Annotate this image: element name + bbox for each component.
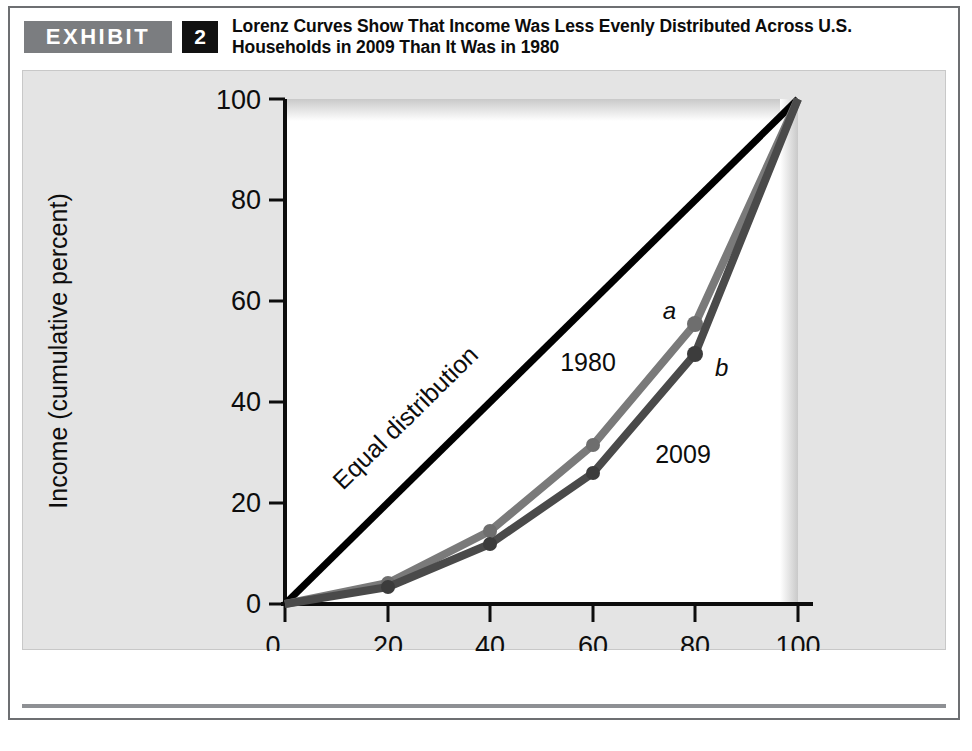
exhibit-number-badge: 2 bbox=[182, 21, 218, 53]
series-2009-marker-80-point-b bbox=[687, 346, 703, 362]
series-2009-marker-60 bbox=[586, 466, 600, 480]
annotation-point-b: b bbox=[715, 354, 728, 381]
annotation-series-2009: 2009 bbox=[655, 440, 711, 468]
y-axis-tick-labels: 0 20 40 60 80 100 bbox=[216, 85, 261, 619]
y-tick-label-80: 80 bbox=[231, 185, 261, 215]
lorenz-curve-chart: 0 20 40 60 80 100 0 20 40 60 8 bbox=[23, 71, 947, 651]
exhibit-badge: EXHIBIT bbox=[24, 21, 172, 53]
exhibit-title-line-2: in 2009 Than It Was in 1980 bbox=[336, 37, 559, 57]
y-tick-label-0: 0 bbox=[246, 589, 261, 619]
exhibit-frame: EXHIBIT 2 Lorenz Curves Show That Income… bbox=[8, 6, 960, 720]
chart-panel: 0 20 40 60 80 100 0 20 40 60 8 bbox=[22, 70, 946, 650]
x-tick-label-20: 20 bbox=[373, 631, 403, 651]
y-tick-label-20: 20 bbox=[231, 488, 261, 518]
plot-top-shadow bbox=[285, 99, 798, 121]
x-tick-label-100: 100 bbox=[775, 631, 820, 651]
y-axis-ticks bbox=[269, 99, 285, 604]
y-axis-title: Income (cumulative percent) bbox=[44, 193, 72, 508]
annotation-point-a: a bbox=[663, 297, 676, 324]
footer-divider bbox=[22, 704, 946, 708]
y-tick-label-100: 100 bbox=[216, 85, 261, 115]
plot-right-shadow bbox=[780, 99, 798, 603]
series-2009-marker-20 bbox=[381, 580, 395, 594]
x-tick-label-0: 0 bbox=[265, 631, 280, 651]
series-2009-marker-40 bbox=[483, 537, 497, 551]
x-axis-ticks bbox=[285, 604, 798, 622]
exhibit-header: EXHIBIT 2 Lorenz Curves Show That Income… bbox=[10, 8, 958, 70]
x-tick-label-40: 40 bbox=[475, 631, 505, 651]
series-1980-marker-60 bbox=[586, 438, 600, 452]
exhibit-title: Lorenz Curves Show That Income Was Less … bbox=[232, 16, 932, 58]
x-axis-tick-labels: 0 20 40 60 80 100 bbox=[265, 631, 820, 651]
y-tick-label-60: 60 bbox=[231, 286, 261, 316]
annotation-series-1980: 1980 bbox=[560, 348, 616, 376]
x-tick-label-60: 60 bbox=[578, 631, 608, 651]
x-tick-label-80: 80 bbox=[680, 631, 710, 651]
y-tick-label-40: 40 bbox=[231, 387, 261, 417]
